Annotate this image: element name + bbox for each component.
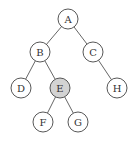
node-f: F bbox=[33, 112, 53, 132]
edge-a-b bbox=[46, 27, 61, 45]
binary-tree-diagram: ABCDEHFG bbox=[0, 0, 135, 143]
node-g: G bbox=[68, 112, 88, 132]
node-label: G bbox=[74, 117, 82, 128]
node-e: E bbox=[50, 78, 70, 98]
node-label: C bbox=[89, 47, 97, 58]
node-label: D bbox=[17, 83, 25, 94]
edge-c-h bbox=[99, 60, 112, 79]
node-b: B bbox=[30, 42, 50, 62]
edge-e-f bbox=[47, 97, 55, 113]
edge-b-e bbox=[45, 61, 55, 80]
node-label: E bbox=[56, 83, 63, 94]
node-a: A bbox=[58, 9, 78, 29]
node-h: H bbox=[107, 78, 127, 98]
node-label: H bbox=[113, 83, 122, 94]
node-label: F bbox=[40, 117, 47, 128]
edge-a-c bbox=[74, 27, 87, 44]
node-label: A bbox=[63, 14, 72, 25]
node-label: B bbox=[36, 47, 43, 58]
edge-b-d bbox=[26, 61, 36, 79]
tree-edges bbox=[26, 27, 112, 114]
edge-e-g bbox=[65, 97, 74, 113]
node-c: C bbox=[83, 42, 103, 62]
node-d: D bbox=[11, 78, 31, 98]
tree-nodes: ABCDEHFG bbox=[11, 9, 127, 132]
